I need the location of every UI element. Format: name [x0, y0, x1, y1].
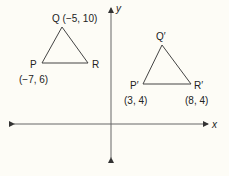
coordinate-plane-diagram: x y Q (−5, 10) P (−7, 6) R Q′ P′ (3, 4) … [0, 0, 229, 176]
label-r: R [92, 59, 99, 70]
label-p: P [30, 59, 37, 70]
x-axis-label: x [211, 119, 218, 130]
triangle-pqr [42, 27, 88, 63]
y-axis-label: y [115, 3, 122, 14]
label-r-prime: R′ [194, 80, 203, 91]
label-r-prime-coord: (8, 4) [185, 95, 208, 106]
triangle-pqr-prime [143, 45, 191, 84]
label-q-prime: Q′ [156, 31, 166, 42]
label-q: Q (−5, 10) [52, 13, 97, 24]
label-p-prime: P′ [130, 80, 139, 91]
label-p-coord: (−7, 6) [19, 74, 48, 85]
label-p-prime-coord: (3, 4) [124, 95, 147, 106]
